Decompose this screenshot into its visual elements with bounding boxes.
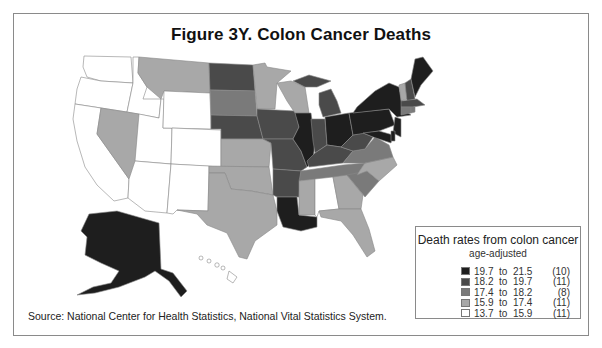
state-hi-3 — [215, 263, 219, 267]
legend-count: (11) — [546, 308, 570, 319]
legend-swatch — [461, 267, 470, 275]
state-ks — [221, 139, 271, 167]
state-hi-1 — [199, 256, 203, 260]
state-ma — [401, 99, 425, 107]
state-me — [411, 57, 433, 97]
state-de — [391, 131, 395, 141]
legend-subtitle: age-adjusted — [416, 248, 580, 259]
legend-range: 18.2 to 19.7 — [474, 276, 546, 287]
legend-item: 17.4 to 18.2 (8) — [461, 287, 570, 298]
legend-item: 13.7 to 15.9 (11) — [461, 308, 570, 319]
state-hi-5 — [227, 271, 237, 283]
legend-item: 15.9 to 17.4 (11) — [461, 298, 570, 309]
state-sd — [210, 90, 257, 116]
legend-range: 15.9 to 17.4 — [474, 297, 546, 308]
state-ms — [299, 179, 315, 215]
legend-range: 19.7 to 21.5 — [474, 266, 546, 277]
state-hi-4 — [221, 266, 225, 270]
legend-count: (10) — [546, 266, 570, 277]
state-az — [128, 161, 171, 213]
state-nm — [167, 164, 209, 214]
state-fl — [319, 209, 375, 257]
legend-item: 19.7 to 21.5 (10) — [461, 266, 570, 277]
legend-range: 17.4 to 18.2 — [474, 287, 546, 298]
legend-count: (11) — [546, 297, 570, 308]
figure-frame: Figure 3Y. Colon Cancer Deaths — [13, 13, 589, 336]
state-hi-2 — [207, 259, 211, 263]
legend-swatch — [461, 278, 470, 286]
legend-items: 19.7 to 21.5 (10) 18.2 to 19.7 (11) 17.4… — [461, 266, 570, 319]
state-co — [171, 128, 221, 167]
legend-swatch — [461, 288, 470, 296]
legend-count: (11) — [546, 276, 570, 287]
source-note: Source: National Center for Health Stati… — [28, 310, 387, 322]
map-legend: Death rates from colon cancer age-adjust… — [415, 226, 581, 319]
legend-count: (8) — [546, 287, 570, 298]
legend-item: 18.2 to 19.7 (11) — [461, 277, 570, 288]
state-mi — [319, 89, 341, 117]
state-ri — [411, 107, 415, 113]
legend-swatch — [461, 299, 470, 307]
state-ar — [273, 169, 301, 197]
state-nd — [209, 63, 255, 91]
legend-swatch — [461, 309, 470, 317]
legend-title: Death rates from colon cancer — [416, 233, 580, 247]
state-ak — [77, 211, 187, 297]
state-ia — [257, 109, 299, 139]
legend-range: 13.7 to 15.9 — [474, 308, 546, 319]
state-wy — [163, 91, 211, 129]
